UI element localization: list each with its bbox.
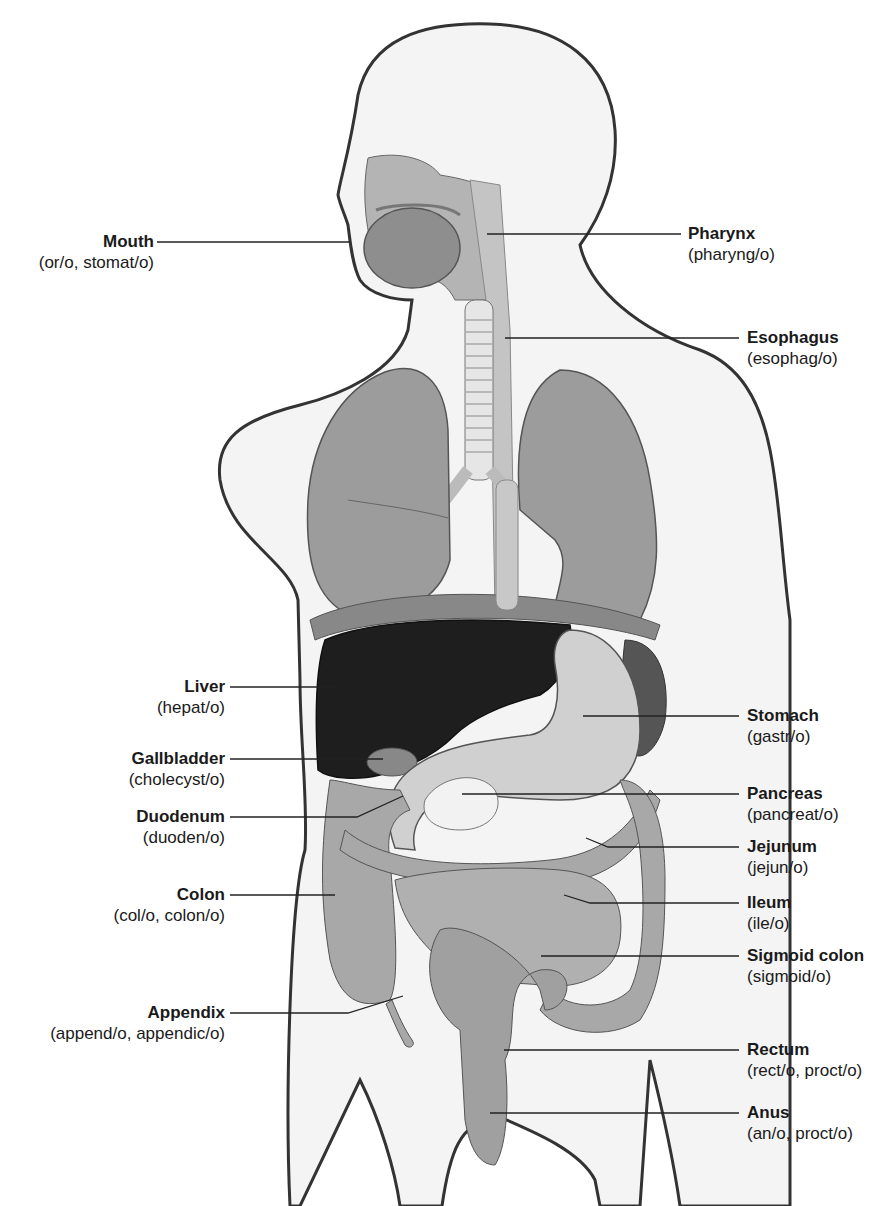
label-name: Sigmoid colon: [747, 945, 864, 966]
label-roots: (rect/o, proct/o): [747, 1060, 862, 1081]
label-roots: (cholecyst/o): [129, 769, 225, 790]
label-duodenum: Duodenum (duoden/o): [136, 806, 225, 848]
label-name: Rectum: [747, 1039, 862, 1060]
label-esophagus: Esophagus (esophag/o): [747, 327, 839, 369]
label-roots: (or/o, stomat/o): [39, 252, 154, 273]
label-name: Stomach: [747, 705, 819, 726]
label-name: Jejunum: [747, 836, 817, 857]
label-liver: Liver (hepat/o): [157, 676, 225, 718]
label-sigmoid-colon: Sigmoid colon (sigmoid/o): [747, 945, 864, 987]
label-name: Colon: [114, 884, 226, 905]
label-name: Duodenum: [136, 806, 225, 827]
label-roots: (hepat/o): [157, 697, 225, 718]
label-roots: (gastr/o): [747, 726, 819, 747]
label-name: Appendix: [50, 1002, 225, 1023]
label-name: Pancreas: [747, 783, 839, 804]
label-roots: (pharyng/o): [688, 244, 775, 265]
label-colon: Colon (col/o, colon/o): [114, 884, 226, 926]
label-mouth: Mouth (or/o, stomat/o): [39, 231, 154, 273]
label-rectum: Rectum (rect/o, proct/o): [747, 1039, 862, 1081]
label-ileum: Ileum (ile/o): [747, 892, 791, 934]
label-stomach: Stomach (gastr/o): [747, 705, 819, 747]
label-roots: (append/o, appendic/o): [50, 1023, 225, 1044]
label-pancreas: Pancreas (pancreat/o): [747, 783, 839, 825]
label-name: Pharynx: [688, 223, 775, 244]
label-roots: (col/o, colon/o): [114, 905, 226, 926]
label-jejunum: Jejunum (jejun/o): [747, 836, 817, 878]
label-roots: (sigmoid/o): [747, 966, 864, 987]
label-roots: (duoden/o): [136, 827, 225, 848]
label-roots: (ile/o): [747, 913, 791, 934]
label-pharynx: Pharynx (pharyng/o): [688, 223, 775, 265]
label-roots: (an/o, proct/o): [747, 1123, 853, 1144]
label-appendix: Appendix (append/o, appendic/o): [50, 1002, 225, 1044]
label-name: Ileum: [747, 892, 791, 913]
label-name: Anus: [747, 1102, 853, 1123]
esophagus: [496, 480, 518, 610]
label-name: Esophagus: [747, 327, 839, 348]
label-name: Mouth: [39, 231, 154, 252]
label-gallbladder: Gallbladder (cholecyst/o): [129, 748, 225, 790]
label-name: Liver: [157, 676, 225, 697]
label-anus: Anus (an/o, proct/o): [747, 1102, 853, 1144]
label-roots: (pancreat/o): [747, 804, 839, 825]
label-roots: (jejun/o): [747, 857, 817, 878]
label-roots: (esophag/o): [747, 348, 839, 369]
label-name: Gallbladder: [129, 748, 225, 769]
